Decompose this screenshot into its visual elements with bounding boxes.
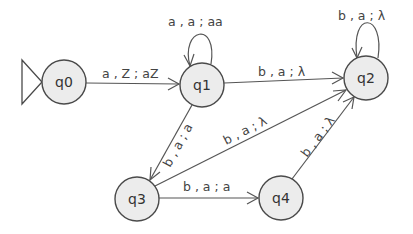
state-q2: q2: [344, 56, 388, 100]
transition-q4-q2: b , a ; λ: [292, 97, 354, 179]
transition-q3-q4: b , a ; a: [159, 179, 258, 204]
transition-label: b , a ; a: [160, 121, 196, 170]
start-state-marker: [22, 60, 42, 104]
transition-label: a , a ; aa: [168, 14, 223, 29]
transition-label: b , a ; λ: [338, 8, 386, 23]
state-label: q4: [272, 190, 290, 206]
transition-q0-q1: a , Z ; aZ: [86, 66, 179, 90]
transition-label: a , Z ; aZ: [102, 66, 159, 81]
state-label: q2: [357, 70, 375, 86]
transition-q2-q2: b , a ; λ: [338, 8, 386, 58]
state-label: q3: [128, 191, 146, 207]
transition-label: b , a ; λ: [258, 64, 306, 79]
transition-q1-q1: a , a ; aa: [168, 14, 223, 66]
state-label: q0: [55, 74, 73, 90]
transition-q1-q2: b , a ; λ: [224, 64, 343, 84]
state-q0: q0: [42, 60, 86, 104]
state-label: q1: [193, 77, 211, 93]
state-q1: q1: [180, 63, 224, 107]
transition-label: b , a ; λ: [221, 113, 270, 148]
automaton-diagram: a , Z ; aZ a , a ; aa b , a ; λ b , a ; …: [0, 0, 413, 234]
state-q3: q3: [115, 177, 159, 221]
transition-label: b , a ; λ: [297, 113, 338, 160]
transition-label: b , a ; a: [183, 179, 230, 194]
state-q4: q4: [259, 176, 303, 220]
